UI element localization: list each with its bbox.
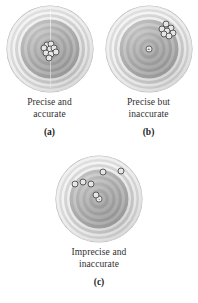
panel-c-label: (c) [94,277,105,287]
panel-b-caption-line2: inaccurate [127,109,170,121]
panel-a-label: (a) [44,127,55,137]
panel-b-caption-line1: Precise but [127,97,170,109]
target-board-a [7,6,93,92]
panel-b: Precise but inaccurate (b) [99,6,198,137]
panel-a-caption-line1: Precise and [27,97,72,109]
panel-c-caption-line2: inaccurate [72,259,127,271]
target-board-c [56,156,142,242]
panel-b-label: (b) [143,127,155,137]
panel-a-caption: Precise and accurate [27,97,72,120]
target-ring-14 [46,46,53,53]
panel-a: Precise and accurate (a) [0,6,99,137]
panel-c-caption: Imprecise and inaccurate [72,247,127,270]
panel-b-caption: Precise but inaccurate [127,97,170,120]
panel-c: Imprecise and inaccurate (c) [49,156,149,287]
target-ring-14 [145,46,152,53]
precision-accuracy-figure: Precise and accurate (a) Precise but [0,0,198,303]
panel-c-caption-line1: Imprecise and [72,247,127,259]
target-board-b [106,6,192,92]
panel-a-caption-line2: accurate [27,109,72,121]
target-ring-14 [96,196,103,203]
